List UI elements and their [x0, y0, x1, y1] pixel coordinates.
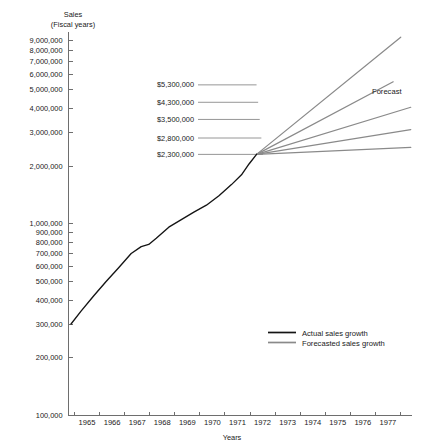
y-axis-title: Sales: [64, 10, 83, 19]
annotation-label-1: $5,300,000: [157, 80, 194, 89]
x-tick-label: 1968: [154, 418, 171, 427]
x-tick-label: 1966: [104, 418, 121, 427]
x-tick-label: 1976: [354, 418, 371, 427]
actual-series-group: [71, 154, 257, 324]
y-tick-label: 700,000: [36, 249, 63, 258]
y-axis-tick-labels: 9,000,0008,000,0007,000,0006,000,0005,00…: [30, 36, 63, 420]
legend-label-actual: Actual sales growth: [302, 329, 368, 338]
x-tick-label: 1970: [204, 418, 221, 427]
y-tick-label: 2,000,000: [30, 162, 63, 171]
annotation-label-4: $2,800,000: [157, 134, 194, 143]
legend-label-forecast: Forecasted sales growth: [302, 339, 385, 348]
x-tick-label: 1965: [79, 418, 96, 427]
chart-legend: Actual sales growth Forecasted sales gro…: [268, 329, 385, 348]
annotation-label-3: $3,500,000: [157, 115, 194, 124]
annotation-label-5: $2,300,000: [157, 150, 194, 159]
y-tick-label: 8,000,000: [30, 46, 63, 55]
x-tick-label: 1972: [254, 418, 271, 427]
y-tick-label: 500,000: [36, 277, 63, 286]
x-tick-label: 1974: [304, 418, 321, 427]
annotation-label-2: $4,300,000: [157, 98, 194, 107]
x-tick-label: 1975: [329, 418, 346, 427]
y-tick-label: 3,000,000: [30, 128, 63, 137]
x-axis-title: Years: [223, 433, 242, 442]
y-tick-label: 9,000,000: [30, 36, 63, 45]
forecast-annotation-label: Forecast: [372, 87, 402, 96]
x-tick-label: 1969: [179, 418, 196, 427]
annotation-labels: $5,300,000$4,300,000$3,500,000$2,800,000…: [157, 80, 194, 159]
y-tick-label: 100,000: [36, 411, 63, 420]
chart-canvas: Sales (Fiscal years) 9,000,0008,000,0007…: [0, 0, 444, 447]
y-tick-label: 400,000: [36, 296, 63, 305]
annotation-leader-lines: [198, 85, 263, 155]
y-axis-ticks: [69, 41, 73, 416]
y-tick-label: 300,000: [36, 320, 63, 329]
y-tick-label: 200,000: [36, 353, 63, 362]
y-tick-label: 6,000,000: [30, 70, 63, 79]
x-axis-tick-labels: 1965196619671968196919701971197219731974…: [79, 418, 397, 427]
x-axis-ticks: [75, 412, 401, 416]
y-tick-label: 1,000,000: [30, 219, 63, 228]
x-tick-label: 1977: [379, 418, 396, 427]
y-tick-label: 900,000: [36, 228, 63, 237]
y-tick-label: 800,000: [36, 238, 63, 247]
forecast-line-3: [257, 107, 411, 154]
y-tick-label: 600,000: [36, 262, 63, 271]
y-tick-label: 4,000,000: [30, 104, 63, 113]
x-tick-label: 1967: [129, 418, 146, 427]
y-tick-label: 7,000,000: [30, 57, 63, 66]
y-tick-label: 5,000,000: [30, 85, 63, 94]
y-axis-subtitle: (Fiscal years): [51, 20, 95, 29]
x-tick-label: 1973: [279, 418, 296, 427]
x-tick-label: 1971: [229, 418, 246, 427]
sales-forecast-chart: Sales (Fiscal years) 9,000,0008,000,0007…: [0, 0, 444, 447]
actual-sales-line: [71, 154, 257, 324]
